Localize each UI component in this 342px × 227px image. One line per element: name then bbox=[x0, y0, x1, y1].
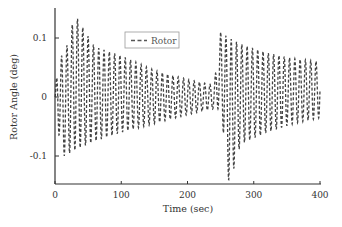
y-tick-label: -0.1 bbox=[30, 151, 47, 161]
legend-label-rotor: Rotor bbox=[151, 36, 177, 46]
x-axis-label: Time (sec) bbox=[163, 203, 213, 214]
y-axis-label: Rotor Angle (deg) bbox=[8, 54, 19, 140]
rotor-angle-chart: 0100200300400 0.10-0.1 Time (sec) Rotor … bbox=[0, 0, 342, 227]
x-tick-label: 0 bbox=[52, 190, 58, 200]
x-tick-label: 200 bbox=[179, 190, 196, 200]
legend: Rotor bbox=[125, 32, 179, 48]
rotor-line bbox=[55, 19, 320, 180]
y-tick-label: 0 bbox=[41, 92, 47, 102]
x-tick-label: 100 bbox=[113, 190, 130, 200]
x-tick-label: 300 bbox=[245, 190, 262, 200]
plot-series-rotor bbox=[55, 19, 320, 180]
y-tick-label: 0.1 bbox=[33, 33, 47, 43]
x-tick-label: 400 bbox=[311, 190, 328, 200]
